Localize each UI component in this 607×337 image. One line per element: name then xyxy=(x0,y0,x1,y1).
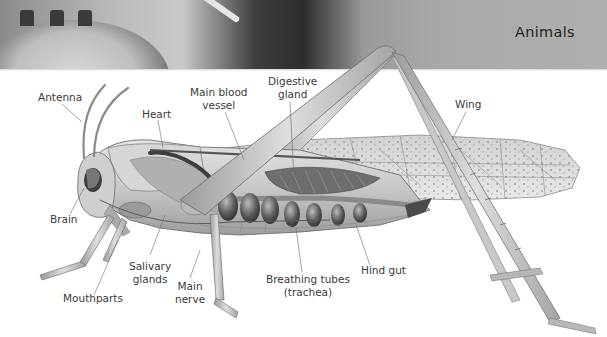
label-line: Digestive xyxy=(268,75,317,88)
label-line: Main blood xyxy=(190,86,248,99)
label-main-nerve: Main nerve xyxy=(175,280,205,306)
label-heart: Heart xyxy=(142,108,171,121)
label-main-blood-vessel: Main blood vessel xyxy=(190,86,248,112)
label-line: glands xyxy=(129,273,171,286)
label-salivary-glands: Salivary glands xyxy=(129,260,171,286)
label-breathing-tubes: Breathing tubes (trachea) xyxy=(266,273,350,299)
label-line: Breathing tubes xyxy=(266,273,350,286)
label-brain: Brain xyxy=(50,213,78,226)
label-hind-gut: Hind gut xyxy=(361,264,406,277)
label-mouthparts: Mouthparts xyxy=(63,292,123,305)
label-line: gland xyxy=(268,88,317,101)
label-antenna: Antenna xyxy=(38,91,82,104)
label-line: Main xyxy=(175,280,205,293)
label-line: (trachea) xyxy=(266,286,350,299)
label-line: Salivary xyxy=(129,260,171,273)
label-line: nerve xyxy=(175,293,205,306)
label-wing: Wing xyxy=(455,98,481,111)
label-line: vessel xyxy=(190,99,248,112)
label-digestive-gland: Digestive gland xyxy=(268,75,317,101)
